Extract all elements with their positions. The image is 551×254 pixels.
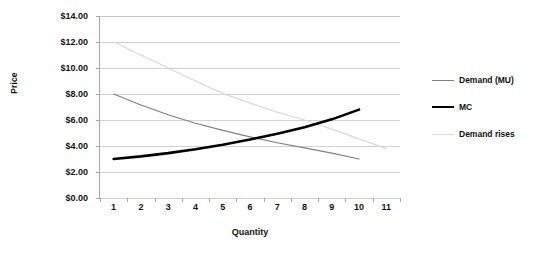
x-axis-tick-label: 5 [211,203,235,212]
series-line [114,42,387,149]
x-axis-tick-label: 7 [265,203,289,212]
y-axis-tick-label: $2.00 [4,168,88,177]
x-tick-mark [182,198,183,202]
y-axis-tick-label: $12.00 [4,38,88,47]
x-axis-tick-label: 6 [238,203,262,212]
x-tick-mark [155,198,156,202]
x-axis-tick-label: 11 [374,203,398,212]
x-tick-mark [236,198,237,202]
plot-area [100,16,400,198]
x-axis-tick-label: 1 [102,203,126,212]
legend-item-label: MC [459,102,472,112]
y-axis-tick-label: $14.00 [4,12,88,21]
x-tick-mark [318,198,319,202]
legend-item-label: Demand rises [459,129,515,139]
x-axis-title: Quantity [100,227,400,237]
x-tick-mark [100,198,101,202]
x-axis-tick-labels: 1234567891011 [100,203,400,219]
x-axis-tick-label: 2 [129,203,153,212]
x-tick-mark [345,198,346,202]
x-axis-tick-label: 9 [320,203,344,212]
x-axis-tick-label: 4 [183,203,207,212]
legend-line-swatch [432,134,454,135]
x-tick-mark [209,198,210,202]
legend-item[interactable]: MC [432,100,472,114]
chart-container: Price $0.00$2.00$4.00$6.00$8.00$10.00$12… [0,0,551,254]
x-tick-mark [264,198,265,202]
x-axis-tick-label: 10 [347,203,371,212]
gridline [100,198,400,199]
legend-line-swatch [432,80,454,81]
legend-line-swatch [432,106,454,108]
y-axis-tick-label: $0.00 [4,194,88,203]
y-axis-tick-labels: $0.00$2.00$4.00$6.00$8.00$10.00$12.00$14… [0,0,94,254]
x-axis-tick-label: 8 [293,203,317,212]
y-axis-tick-label: $4.00 [4,142,88,151]
y-axis-tick-label: $6.00 [4,116,88,125]
y-axis-tick-label: $8.00 [4,90,88,99]
legend-item-label: Demand (MU) [459,75,514,85]
y-axis-tick-label: $10.00 [4,64,88,73]
data-series-group [100,16,400,198]
legend-item[interactable]: Demand (MU) [432,73,514,87]
x-tick-mark [127,198,128,202]
x-tick-mark [291,198,292,202]
x-tick-mark [373,198,374,202]
x-tick-mark [400,198,401,202]
legend-item[interactable]: Demand rises [432,127,515,141]
x-axis-tick-label: 3 [156,203,180,212]
